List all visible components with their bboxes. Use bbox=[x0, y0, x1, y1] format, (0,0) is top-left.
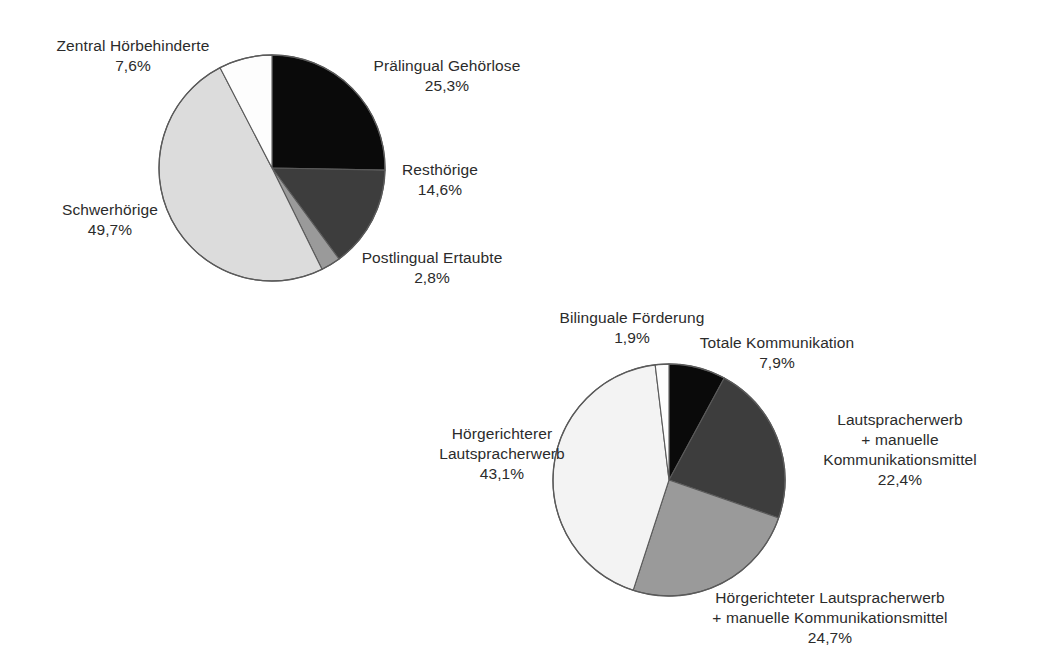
pie-chart-communication-methods: Bilinguale Förderung 1,9% Totale Kommuni… bbox=[400, 300, 1043, 665]
pie2-label-hoergerichterer-lautspracherwerb-line1: Hörgerichterer bbox=[439, 424, 565, 444]
pie1-label-praelingual-gehoerlose-title: Prälingual Gehörlose bbox=[374, 56, 521, 76]
pie2-label-hoergerichterer-lautspracherwerb-line2: Lautspracherwerb bbox=[439, 444, 565, 464]
pie1-label-resthoerige-value: 14,6% bbox=[402, 180, 478, 200]
pie2-label-bilinguale-foerderung-value: 1,9% bbox=[559, 328, 704, 348]
pie1-label-schwerhoerige-value: 49,7% bbox=[62, 220, 158, 240]
pie1-label-zentral-hoerbehinderte: Zentral Hörbehinderte 7,6% bbox=[57, 36, 210, 76]
pie2-label-lautspracherwerb-manuell: Lautspracherwerb + manuelle Kommunikatio… bbox=[823, 410, 977, 490]
pie2-label-hoergerichterer-lautspracherwerb-value: 43,1% bbox=[439, 464, 565, 484]
pie1-label-postlingual-ertaubte-title: Postlingual Ertaubte bbox=[362, 248, 503, 268]
pie2-label-hoergerichteter-lautspracherwerb-manuell-value: 24,7% bbox=[712, 628, 947, 648]
pie1-label-praelingual-gehoerlose: Prälingual Gehörlose 25,3% bbox=[374, 56, 521, 96]
pie2-label-totale-kommunikation: Totale Kommunikation 7,9% bbox=[700, 333, 855, 373]
pie-chart-hearing-impairment-types: Zentral Hörbehinderte 7,6% Prälingual Ge… bbox=[0, 0, 560, 300]
pie1-label-resthoerige-title: Resthörige bbox=[402, 160, 478, 180]
pie2-label-hoergerichteter-lautspracherwerb-manuell: Hörgerichteter Lautspracherwerb + manuel… bbox=[712, 588, 947, 648]
pie1-label-resthoerige: Resthörige 14,6% bbox=[402, 160, 478, 200]
pie2-label-lautspracherwerb-manuell-line3: Kommunikationsmittel bbox=[823, 450, 977, 470]
pie1-label-zentral-hoerbehinderte-title: Zentral Hörbehinderte bbox=[57, 36, 210, 56]
pie-slice bbox=[272, 55, 385, 170]
pie1-label-postlingual-ertaubte-value: 2,8% bbox=[362, 268, 503, 288]
pie2-label-bilinguale-foerderung: Bilinguale Förderung 1,9% bbox=[559, 308, 704, 348]
pie1-label-postlingual-ertaubte: Postlingual Ertaubte 2,8% bbox=[362, 248, 503, 288]
pie2-label-totale-kommunikation-value: 7,9% bbox=[700, 353, 855, 373]
pie1-label-praelingual-gehoerlose-value: 25,3% bbox=[374, 76, 521, 96]
pie2-label-hoergerichteter-lautspracherwerb-manuell-line2: + manuelle Kommunikationsmittel bbox=[712, 608, 947, 628]
pie2-label-lautspracherwerb-manuell-line1: Lautspracherwerb bbox=[823, 410, 977, 430]
pie1-label-schwerhoerige-title: Schwerhörige bbox=[62, 200, 158, 220]
pie2-label-lautspracherwerb-manuell-value: 22,4% bbox=[823, 470, 977, 490]
pie1-label-zentral-hoerbehinderte-value: 7,6% bbox=[57, 56, 210, 76]
pie2-label-totale-kommunikation-title: Totale Kommunikation bbox=[700, 333, 855, 353]
pie2-label-bilinguale-foerderung-title: Bilinguale Förderung bbox=[559, 308, 704, 328]
pie1-label-schwerhoerige: Schwerhörige 49,7% bbox=[62, 200, 158, 240]
figure-page: Zentral Hörbehinderte 7,6% Prälingual Ge… bbox=[0, 0, 1043, 665]
pie2-label-hoergerichteter-lautspracherwerb-manuell-line1: Hörgerichteter Lautspracherwerb bbox=[712, 588, 947, 608]
pie2-label-lautspracherwerb-manuell-line2: + manuelle bbox=[823, 430, 977, 450]
pie2-label-hoergerichterer-lautspracherwerb: Hörgerichterer Lautspracherwerb 43,1% bbox=[439, 424, 565, 484]
